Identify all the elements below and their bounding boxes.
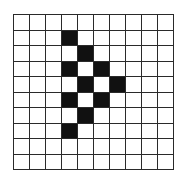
grid-cell (158, 46, 174, 62)
grid-cell (142, 155, 158, 171)
grid-cell-filled (78, 77, 94, 93)
grid-cell (78, 93, 94, 109)
grid-cell (14, 93, 30, 109)
grid-cell (14, 77, 30, 93)
grid-cell (142, 124, 158, 140)
grid-cell (30, 155, 46, 171)
grid-cell (14, 155, 30, 171)
grid-cell-filled (62, 93, 78, 109)
grid-cell (78, 15, 94, 31)
grid-cell (142, 62, 158, 78)
grid-cell (94, 124, 110, 140)
grid-cell (94, 46, 110, 62)
grid-cell (158, 124, 174, 140)
grid-cell (142, 31, 158, 47)
grid-cell (158, 62, 174, 78)
grid-cell (14, 139, 30, 155)
grid-cell (30, 15, 46, 31)
grid-cell (62, 46, 78, 62)
grid-cell (30, 124, 46, 140)
grid-cell (110, 62, 126, 78)
grid-cell (62, 77, 78, 93)
grid-cell (30, 93, 46, 109)
grid-cell (110, 46, 126, 62)
grid-cell (14, 15, 30, 31)
grid-cell (94, 15, 110, 31)
grid-cell (110, 31, 126, 47)
grid-cell (126, 155, 142, 171)
pixel-grid (13, 14, 174, 170)
grid-cell (158, 31, 174, 47)
grid-cell (158, 93, 174, 109)
grid-cell (30, 46, 46, 62)
grid-cell (46, 155, 62, 171)
grid-cell (14, 62, 30, 78)
grid-cell (78, 139, 94, 155)
grid-cell (110, 139, 126, 155)
grid-cell (46, 108, 62, 124)
grid-cell-filled (110, 77, 126, 93)
grid-cell (158, 155, 174, 171)
grid-cell (158, 77, 174, 93)
grid-cell (94, 31, 110, 47)
grid-cell (30, 77, 46, 93)
grid-cell (46, 62, 62, 78)
grid-cell-filled (94, 62, 110, 78)
grid-cell (46, 77, 62, 93)
grid-cell (126, 124, 142, 140)
grid-cell (126, 139, 142, 155)
grid-cell (30, 139, 46, 155)
grid-cell (14, 31, 30, 47)
grid-cell (94, 77, 110, 93)
grid-cell (62, 155, 78, 171)
grid-cell (142, 77, 158, 93)
grid-cell-filled (94, 93, 110, 109)
grid-cell (78, 62, 94, 78)
grid-cell (46, 93, 62, 109)
grid-cell (158, 139, 174, 155)
grid-cell (94, 108, 110, 124)
grid-cell-filled (62, 124, 78, 140)
grid-cell-filled (78, 108, 94, 124)
grid-cell (62, 15, 78, 31)
grid-cell (46, 139, 62, 155)
grid-cell (142, 46, 158, 62)
grid-cell (126, 31, 142, 47)
grid-cell-filled (62, 62, 78, 78)
grid-cell (126, 46, 142, 62)
grid-cell (110, 15, 126, 31)
grid-cell (14, 124, 30, 140)
grid-cell (142, 15, 158, 31)
grid-cell (142, 93, 158, 109)
grid-cell (126, 93, 142, 109)
grid-cell-filled (78, 46, 94, 62)
grid-cell (94, 155, 110, 171)
grid-cell (110, 155, 126, 171)
grid-cell (78, 124, 94, 140)
grid-cell (46, 31, 62, 47)
grid-cell (126, 77, 142, 93)
grid-cell (14, 108, 30, 124)
grid-cell (78, 31, 94, 47)
grid-cell (94, 139, 110, 155)
grid-cell (158, 108, 174, 124)
grid-cell (14, 46, 30, 62)
grid-cell (126, 62, 142, 78)
grid-cell (62, 108, 78, 124)
grid-cell (126, 15, 142, 31)
grid-cell (46, 15, 62, 31)
grid-cell (78, 155, 94, 171)
grid-cell (158, 15, 174, 31)
grid-cell (142, 139, 158, 155)
grid-cell (30, 31, 46, 47)
grid-cell (30, 108, 46, 124)
grid-cell (46, 46, 62, 62)
grid-cell (46, 124, 62, 140)
grid-cell (30, 62, 46, 78)
grid-cell (142, 108, 158, 124)
grid-cell (126, 108, 142, 124)
grid-cell (62, 139, 78, 155)
grid-cell (110, 124, 126, 140)
grid-cell (110, 93, 126, 109)
grid-cell-filled (62, 31, 78, 47)
